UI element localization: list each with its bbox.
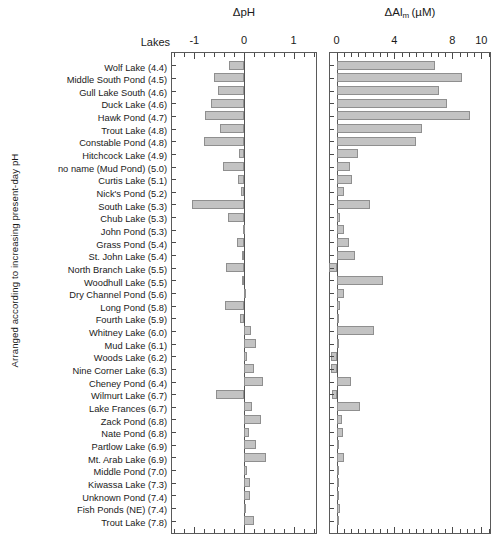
row-tick [330, 293, 334, 294]
lake-label: Unknown Pond (7.4) [82, 492, 167, 506]
row-tick [172, 141, 176, 142]
axis-tick-minor [204, 529, 205, 533]
bar [337, 149, 359, 158]
bar [204, 137, 244, 146]
row-tick [330, 457, 334, 458]
bar [337, 402, 360, 411]
axis-tick-minor [416, 53, 417, 57]
row-tick [330, 445, 334, 446]
axis-tick-minor [423, 529, 424, 533]
panel-title-unit: (µM) [409, 6, 435, 18]
lake-label: Fourth Lake (5.9) [96, 314, 167, 328]
axis-tick-minor [344, 529, 345, 533]
row-tick [330, 483, 334, 484]
plot-area-al [330, 53, 490, 533]
axis-tick-minor [402, 529, 403, 533]
row-tick [330, 116, 334, 117]
axis-tick-minor [467, 53, 468, 57]
bar [244, 289, 246, 298]
figure-root: Arranged according to increasing present… [0, 0, 497, 545]
row-tick [172, 419, 176, 420]
bar [337, 504, 341, 513]
row-tick [172, 495, 176, 496]
row-tick [330, 217, 334, 218]
row-tick [330, 280, 334, 281]
bar [337, 466, 339, 475]
axis-tick-minor [284, 529, 285, 533]
axis-tick-minor [460, 529, 461, 533]
row-tick [172, 382, 176, 383]
axis-tick-minor [254, 53, 255, 57]
row-tick [330, 306, 334, 307]
bar [337, 61, 435, 70]
axis-tick-minor [284, 53, 285, 57]
axis-tick-label: 1 [279, 34, 309, 46]
axis-tick-minor [474, 529, 475, 533]
bar [223, 162, 244, 171]
lake-label: Curtis Lake (5.1) [98, 175, 167, 189]
bar [337, 187, 344, 196]
axis-tick-major [481, 53, 482, 59]
axis-tick-minor [438, 53, 439, 57]
axis-tick-minor [380, 53, 381, 57]
bar [211, 99, 244, 108]
axis-tick-major [244, 53, 245, 59]
row-tick [172, 445, 176, 446]
lake-label: Woodhull Lake (5.5) [84, 277, 167, 291]
axis-tick-major [194, 53, 195, 59]
panel-title-main: ΔpH [233, 6, 255, 18]
panel-title-al: ΔAlm (µM) [329, 6, 491, 20]
row-tick [172, 65, 176, 66]
axis-tick-major [452, 527, 453, 533]
lake-label: Middle South Pond (4.5) [67, 74, 167, 88]
axis-tick-minor [445, 529, 446, 533]
row-tick [330, 179, 334, 180]
bar [337, 111, 470, 120]
row-tick [330, 65, 334, 66]
axis-tick-minor [274, 53, 275, 57]
axis-tick-minor [373, 529, 374, 533]
axis-tick-minor [431, 53, 432, 57]
row-tick [330, 495, 334, 496]
row-tick [330, 508, 334, 509]
axis-tick-major [394, 53, 395, 59]
lake-label: Lake Frances (6.7) [89, 403, 167, 417]
row-tick [172, 521, 176, 522]
lake-label: Mt. Arab Lake (6.9) [88, 454, 167, 468]
axis-tick-minor [304, 53, 305, 57]
bar [244, 516, 254, 525]
row-tick [330, 318, 334, 319]
bar [242, 276, 244, 285]
axis-tick-major [244, 527, 245, 533]
lake-label: Mud Lake (6.1) [104, 340, 167, 354]
row-tick [330, 356, 334, 357]
lake-label: Nine Corner Lake (6.3) [72, 365, 167, 379]
lake-label: no name (Mud Pond) (5.0) [58, 163, 167, 177]
lake-label: South Lake (5.3) [98, 201, 167, 215]
bar [244, 504, 246, 513]
axis-tick-minor [365, 53, 366, 57]
row-tick [330, 242, 334, 243]
bar [243, 225, 245, 234]
lake-label: Kiwassa Lake (7.3) [88, 479, 167, 493]
lake-name-column: Wolf Lake (4.4)Middle South Pond (4.5)Gu… [20, 56, 170, 536]
bar [337, 162, 350, 171]
bar [337, 225, 345, 234]
axis-tick-major [294, 53, 295, 59]
bar [337, 301, 341, 310]
axis-tick-minor [431, 529, 432, 533]
chart-panel-delta-ph [171, 52, 317, 534]
y-axis-caption-wrap: Arranged according to increasing present… [0, 0, 22, 545]
axis-tick-minor [358, 529, 359, 533]
row-tick [172, 167, 176, 168]
row-tick [330, 192, 334, 193]
axis-tick-minor [351, 53, 352, 57]
bar [337, 428, 344, 437]
row-tick [330, 432, 334, 433]
axis-tick-minor [184, 53, 185, 57]
axis-tick-minor [344, 53, 345, 57]
bar [244, 377, 263, 386]
lake-label: Duck Lake (4.6) [101, 99, 167, 113]
axis-tick-major [337, 527, 338, 533]
row-tick [330, 407, 334, 408]
